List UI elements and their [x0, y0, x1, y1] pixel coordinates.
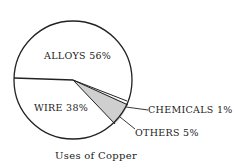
pie-chart: [0, 0, 235, 168]
label-wire: WIRE 38%: [34, 102, 88, 113]
boundary-alloys-wire: [14, 78, 73, 80]
leader-chemicals: [126, 107, 148, 110]
label-others: OTHERS 5%: [135, 127, 199, 138]
label-chemicals: CHEMICALS 1%: [148, 104, 233, 115]
label-alloys: ALLOYS 56%: [44, 50, 111, 61]
leader-others: [120, 117, 135, 129]
chart-caption: Uses of Copper: [55, 150, 137, 161]
